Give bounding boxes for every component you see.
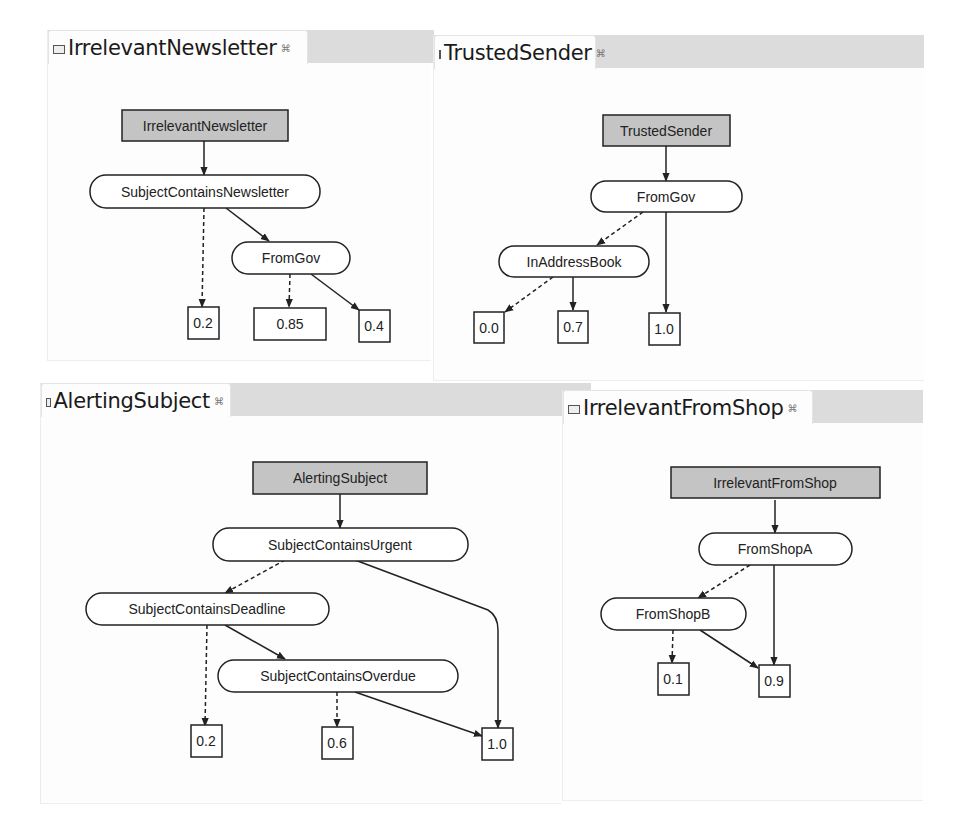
svg-text:SubjectContainsDeadline: SubjectContainsDeadline	[128, 601, 285, 617]
svg-text:1.0: 1.0	[654, 321, 674, 337]
leaf-node[interactable]: 0.2	[191, 725, 222, 757]
svg-text:FromShopA: FromShopA	[738, 541, 813, 557]
svg-text:0.2: 0.2	[196, 733, 216, 749]
leaf-node[interactable]: 0.0	[474, 312, 504, 343]
graph-irrelevant-newsletter: IrrelevantNewsletter SubjectContainsNews…	[90, 110, 390, 342]
svg-text:1.0: 1.0	[487, 736, 507, 752]
svg-text:FromShopB: FromShopB	[636, 606, 711, 622]
svg-text:0.9: 0.9	[764, 673, 784, 689]
svg-text:IrrelevantFromShop: IrrelevantFromShop	[713, 475, 837, 491]
root-node[interactable]: IrrelevantFromShop	[671, 467, 880, 498]
root-node[interactable]: TrustedSender	[603, 115, 730, 146]
leaf-node[interactable]: 1.0	[649, 313, 680, 345]
svg-text:0.2: 0.2	[193, 315, 213, 331]
decision-graphs: IrrelevantNewsletter SubjectContainsNews…	[0, 0, 958, 835]
decision-node[interactable]: SubjectContainsNewsletter	[90, 175, 320, 208]
leaf-node[interactable]: 0.2	[188, 307, 219, 339]
root-node[interactable]: AlertingSubject	[253, 462, 427, 494]
graph-alerting-subject: AlertingSubject SubjectContainsUrgent Su…	[86, 462, 513, 760]
svg-text:SubjectContainsNewsletter: SubjectContainsNewsletter	[121, 184, 289, 200]
decision-node[interactable]: FromGov	[232, 242, 350, 274]
leaf-node[interactable]: 0.1	[658, 663, 689, 695]
decision-node[interactable]: SubjectContainsDeadline	[86, 593, 329, 625]
svg-text:0.0: 0.0	[479, 320, 499, 336]
svg-text:IrrelevantNewsletter: IrrelevantNewsletter	[143, 118, 268, 134]
leaf-node[interactable]: 0.4	[359, 310, 390, 342]
decision-node[interactable]: InAddressBook	[499, 246, 649, 277]
leaf-node[interactable]: 0.6	[322, 727, 353, 759]
graph-irrelevant-from-shop: IrrelevantFromShop FromShopA FromShopB 0…	[601, 467, 880, 697]
svg-text:FromGov: FromGov	[262, 250, 320, 266]
root-node[interactable]: IrrelevantNewsletter	[122, 110, 288, 141]
leaf-node[interactable]: 0.7	[558, 311, 588, 343]
svg-text:SubjectContainsUrgent: SubjectContainsUrgent	[268, 537, 412, 553]
svg-text:0.6: 0.6	[327, 735, 347, 751]
decision-node[interactable]: SubjectContainsOverdue	[218, 660, 458, 692]
svg-text:0.1: 0.1	[663, 671, 683, 687]
svg-text:InAddressBook: InAddressBook	[527, 254, 623, 270]
decision-node[interactable]: FromShopB	[601, 598, 746, 630]
decision-node[interactable]: FromShopA	[699, 533, 852, 565]
leaf-node[interactable]: 1.0	[482, 728, 513, 760]
graph-trusted-sender: TrustedSender FromGov InAddressBook 0.0 …	[474, 115, 742, 345]
svg-text:0.7: 0.7	[563, 319, 583, 335]
svg-text:0.85: 0.85	[276, 316, 303, 332]
leaf-node[interactable]: 0.85	[254, 308, 326, 340]
svg-text:SubjectContainsOverdue: SubjectContainsOverdue	[260, 668, 416, 684]
svg-text:FromGov: FromGov	[637, 189, 695, 205]
leaf-node[interactable]: 0.9	[759, 665, 790, 697]
svg-text:AlertingSubject: AlertingSubject	[293, 470, 387, 486]
svg-text:0.4: 0.4	[364, 318, 384, 334]
decision-node[interactable]: FromGov	[591, 181, 742, 212]
decision-node[interactable]: SubjectContainsUrgent	[213, 528, 468, 561]
svg-text:TrustedSender: TrustedSender	[620, 123, 712, 139]
